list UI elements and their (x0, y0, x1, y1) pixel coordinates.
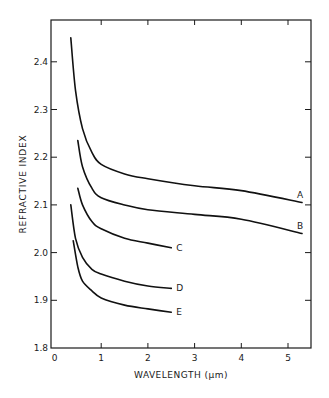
curve-label-c: C (176, 243, 182, 253)
y-tick-label: 2.4 (34, 57, 49, 67)
curve-a (71, 38, 302, 203)
y-tick-label: 2.3 (34, 105, 48, 115)
curve-e (73, 241, 171, 313)
x-tick-label: 3 (192, 353, 198, 363)
y-tick-label: 2.2 (34, 152, 48, 162)
x-tick-label: 5 (285, 353, 291, 363)
data-curves (71, 38, 302, 312)
curve-label-e: E (176, 307, 182, 317)
y-axis-ticks: 1.81.92.02.12.22.32.4 (34, 57, 311, 353)
curve-labels: ABCDE (176, 190, 304, 318)
y-tick-label: 1.9 (34, 295, 49, 305)
curve-label-d: D (176, 283, 183, 293)
x-tick-label: 2 (145, 353, 151, 363)
x-tick-label: 0 (52, 353, 58, 363)
x-tick-label: 1 (98, 353, 104, 363)
curve-c (78, 188, 172, 248)
curve-label-b: B (297, 221, 303, 231)
x-tick-label: 4 (238, 353, 244, 363)
y-tick-label: 2.1 (34, 200, 48, 210)
y-tick-label: 1.8 (34, 343, 49, 353)
curve-b (78, 141, 302, 234)
curve-d (71, 205, 172, 289)
y-tick-label: 2.0 (34, 248, 49, 258)
refractive-index-chart: 012345 1.81.92.02.12.22.32.4 ABCDE WAVEL… (0, 0, 329, 398)
y-axis-label: REFRACTIVE INDEX (18, 134, 28, 233)
curve-label-a: A (297, 190, 304, 200)
x-axis-label: WAVELENGTH (μm) (134, 370, 228, 380)
